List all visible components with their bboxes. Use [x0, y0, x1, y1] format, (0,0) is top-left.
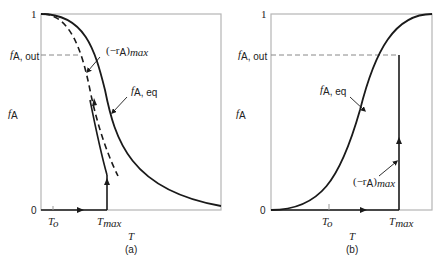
- plot-frame-b: [271, 14, 432, 210]
- x-axis-label-a: T: [128, 230, 135, 242]
- tmax-label-a: Tmax: [97, 215, 122, 229]
- feq-curve-b: [271, 14, 432, 210]
- fout-label-b: fA, out: [238, 48, 267, 62]
- y-axis-label-a: fA: [8, 107, 18, 121]
- rmax-label-b: (−rA)max: [353, 175, 395, 189]
- arrow-icon: [104, 178, 110, 185]
- feq-label-b: fA, eq: [320, 83, 346, 97]
- caption-a: (a): [125, 244, 137, 255]
- fout-label-a: fA, out: [10, 48, 39, 62]
- feq-curve-a: [41, 14, 221, 206]
- arrow-icon: [77, 207, 84, 213]
- feq-label-a: fA, eq: [131, 84, 157, 98]
- leader-feq-a: [113, 97, 127, 112]
- arrow-icon: [360, 207, 367, 213]
- plot-frame-a: [41, 14, 221, 210]
- x-axis-label-b: T: [349, 230, 356, 242]
- panel-b: 1 0 fA, out fA fA, eq (−rA)max To Tmax T…: [236, 8, 432, 255]
- to-label-a: To: [48, 215, 59, 229]
- y-tick-1-b: 1: [261, 8, 267, 20]
- y-tick-1-a: 1: [31, 8, 37, 20]
- y-tick-0-a: 0: [31, 205, 37, 216]
- y-tick-0-b: 0: [260, 205, 266, 216]
- figure: 1 0 fA, out fA (−rA)max fA, eq To Tmax T…: [0, 0, 438, 261]
- tmax-label-b: Tmax: [389, 215, 414, 229]
- path-along-rmax-a: [90, 100, 107, 175]
- leader-rmax-b: [379, 162, 396, 176]
- rmax-label-a: (−rA)max: [106, 44, 148, 58]
- caption-b: (b): [346, 244, 358, 255]
- y-axis-label-b: fA: [236, 107, 246, 121]
- to-label-b: To: [322, 215, 333, 229]
- arrow-icon: [396, 137, 402, 144]
- panel-a: 1 0 fA, out fA (−rA)max fA, eq To Tmax T…: [8, 8, 221, 255]
